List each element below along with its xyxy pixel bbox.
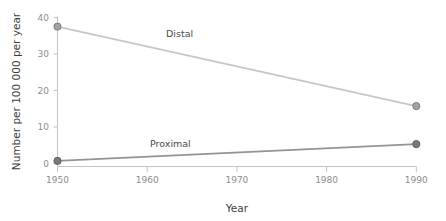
y-tick-marks	[54, 18, 58, 164]
x-tick-marks	[58, 167, 417, 173]
y-tick-label-0: 0	[43, 159, 49, 169]
series-annotation-distal: Distal	[166, 28, 193, 39]
data-point-proximal-1990	[413, 141, 420, 148]
x-tick-label-1960: 1960	[136, 175, 159, 185]
x-tick-label-1950: 1950	[46, 175, 69, 185]
series-line-distal	[58, 27, 417, 107]
series-annotation-proximal: Proximal	[150, 138, 191, 149]
x-tick-label-1970: 1970	[225, 175, 248, 185]
line-chart: 0 10 20 30 40 1950 1960 1970 1980 1990 D…	[0, 0, 446, 221]
x-axis-title: Year	[225, 202, 249, 214]
y-tick-label-30: 30	[38, 49, 50, 59]
data-point-proximal-1950	[54, 157, 61, 164]
y-tick-label-10: 10	[38, 122, 50, 132]
series-line-proximal	[58, 144, 417, 161]
y-tick-label-40: 40	[38, 13, 50, 23]
data-point-distal-1990	[413, 103, 420, 110]
chart-figure: 0 10 20 30 40 1950 1960 1970 1980 1990 D…	[0, 0, 446, 221]
y-axis-title: Number per 100 000 per year	[10, 12, 22, 170]
data-point-distal-1950	[54, 23, 61, 30]
x-tick-label-1990: 1990	[405, 175, 428, 185]
x-tick-label-1980: 1980	[315, 175, 338, 185]
y-tick-label-20: 20	[38, 86, 50, 96]
